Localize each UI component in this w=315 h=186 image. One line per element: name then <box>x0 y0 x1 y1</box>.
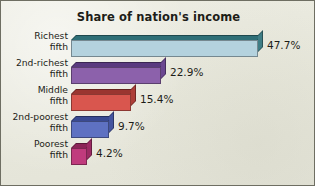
bar-front-face <box>71 94 131 111</box>
category-label-line2: fifth <box>1 69 68 80</box>
category-label-line2: fifth <box>1 123 68 134</box>
bar-middle-fifth <box>71 89 131 111</box>
chart-title: Share of nation's income <box>1 10 315 24</box>
category-label-line1: 2nd-richest <box>16 57 68 68</box>
bar-side-face <box>87 138 92 160</box>
category-label: Middle fifth <box>1 85 68 106</box>
bar-value-label: 15.4% <box>140 93 173 105</box>
bar-front-face <box>71 121 109 138</box>
category-label-line2: fifth <box>1 96 68 107</box>
category-label-line2: fifth <box>1 42 68 53</box>
category-label: 2nd-poorest fifth <box>1 112 68 133</box>
category-label-line1: Richest <box>34 30 68 41</box>
bar-front-face <box>71 148 87 165</box>
bar-value-label: 4.2% <box>96 147 123 159</box>
bar-2nd-poorest-fifth <box>71 116 109 138</box>
category-label-line1: Poorest <box>34 138 68 149</box>
bar-row: Poorest fifth 4.2% <box>1 139 315 169</box>
bar-side-face <box>131 84 136 106</box>
category-label-line1: Middle <box>38 84 68 95</box>
category-label: Richest fifth <box>1 31 68 52</box>
bar-richest-fifth <box>71 35 258 57</box>
bar-side-face <box>258 30 263 52</box>
bar-value-label: 9.7% <box>118 120 145 132</box>
bar-value-label: 22.9% <box>170 66 203 78</box>
bar-value-label: 47.7% <box>267 39 300 51</box>
plot-area: Richest fifth 47.7% 2nd-richest fifth 22… <box>1 31 315 181</box>
bar-front-face <box>71 40 258 57</box>
bar-2nd-richest-fifth <box>71 62 161 84</box>
bar-front-face <box>71 67 161 84</box>
bar-poorest-fifth <box>71 143 87 165</box>
category-label-line2: fifth <box>1 150 68 161</box>
category-label-line1: 2nd-poorest <box>12 111 68 122</box>
category-label: Poorest fifth <box>1 139 68 160</box>
income-share-bar-chart: Share of nation's income Richest fifth 4… <box>0 0 315 186</box>
bar-side-face <box>109 111 114 133</box>
bar-side-face <box>161 57 166 79</box>
category-label: 2nd-richest fifth <box>1 58 68 79</box>
